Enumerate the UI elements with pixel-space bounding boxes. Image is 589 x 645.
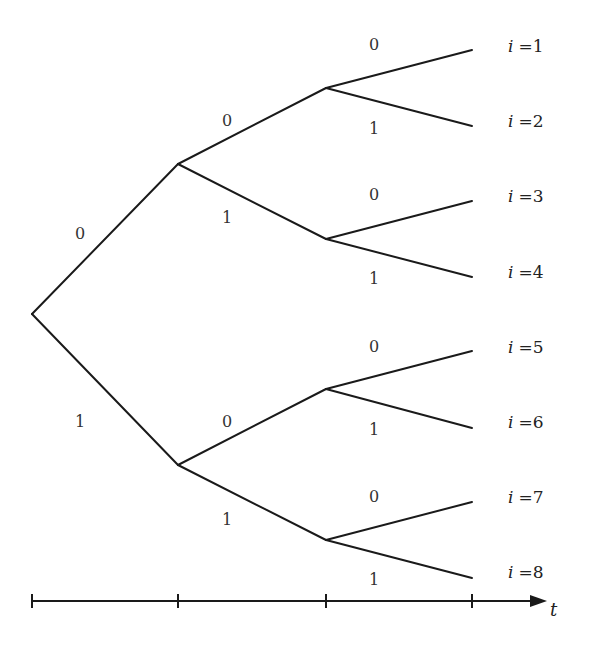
edge-label: 1: [369, 269, 379, 288]
edges-level0: [32, 164, 178, 465]
edge-001: [326, 88, 472, 126]
time-axis: t: [32, 594, 558, 620]
edge-01: [178, 164, 326, 239]
edge-000: [326, 50, 472, 88]
leaf-label-5: i=5: [508, 337, 544, 357]
edge-label: 1: [369, 420, 379, 439]
leaf-labels: i=1 i=2 i=3 i=4 i=5 i=6 i=7 i=8: [508, 36, 544, 582]
edges-level2: [326, 50, 472, 578]
edge-label: 0: [369, 337, 379, 356]
edge-label: 1: [369, 119, 379, 138]
edge-101: [326, 389, 472, 428]
leaf-label-7: i=7: [508, 487, 544, 507]
edge-label: 1: [222, 510, 232, 529]
tree-diagram: 0 1 0 1 0 1 0 1 0 1 0 1 0 1 i=1 i=2 i=3 …: [0, 0, 589, 645]
leaf-label-3: i=3: [508, 186, 544, 206]
edge-010: [326, 201, 472, 239]
leaf-label-6: i=6: [508, 412, 544, 432]
edge-root-0: [32, 164, 178, 314]
edge-label: 1: [222, 208, 232, 227]
axis-arrow-icon: [530, 595, 547, 607]
edge-label: 0: [75, 224, 85, 243]
edge-label: 0: [222, 111, 232, 130]
edge-110: [326, 502, 472, 540]
edge-100: [326, 351, 472, 389]
edge-111: [326, 540, 472, 578]
edge-011: [326, 239, 472, 277]
edge-10: [178, 389, 326, 465]
leaf-label-1: i=1: [508, 36, 544, 56]
edge-label: 0: [369, 487, 379, 506]
edge-root-1: [32, 314, 178, 465]
edge-11: [178, 465, 326, 540]
edges-level1: [178, 88, 326, 540]
leaf-label-4: i=4: [508, 262, 544, 282]
edge-label: 0: [369, 185, 379, 204]
edge-label: 0: [369, 35, 379, 54]
leaf-label-8: i=8: [508, 562, 544, 582]
leaf-label-2: i=2: [508, 111, 544, 131]
edge-label: 1: [75, 412, 85, 431]
axis-label-t: t: [550, 599, 558, 620]
edge-label: 1: [369, 570, 379, 589]
edge-label: 0: [222, 412, 232, 431]
edge-00: [178, 88, 326, 164]
